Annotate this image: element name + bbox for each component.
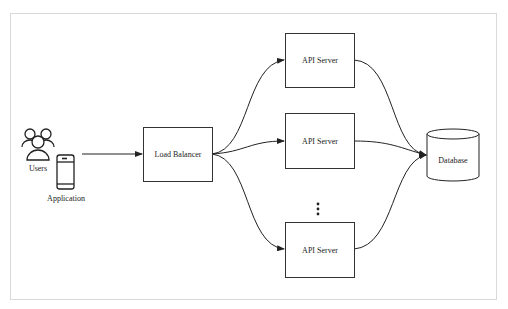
lb-to-api2-arrow bbox=[212, 141, 284, 154]
lb-to-api1-arrow bbox=[212, 60, 284, 154]
api-server-label: API Server bbox=[302, 56, 338, 65]
api-server-label: API Server bbox=[302, 137, 338, 146]
connections-layer bbox=[0, 0, 508, 309]
users-label: Users bbox=[20, 164, 56, 173]
phone-icon bbox=[57, 155, 74, 189]
application-label: Application bbox=[40, 194, 92, 203]
database-icon bbox=[427, 129, 479, 181]
database-label: Database bbox=[427, 156, 479, 165]
users-icon bbox=[22, 129, 54, 160]
api-server-node-3[interactable]: API Server bbox=[285, 222, 355, 278]
load-balancer-label: Load Balancer bbox=[155, 150, 202, 159]
api-server-node-2[interactable]: API Server bbox=[285, 113, 355, 169]
api3-to-db-arrow bbox=[354, 155, 426, 249]
ellipsis-dots bbox=[317, 203, 320, 216]
lb-to-api3-arrow bbox=[212, 154, 284, 249]
api-server-label: API Server bbox=[302, 246, 338, 255]
load-balancer-node[interactable]: Load Balancer bbox=[143, 127, 213, 182]
api2-to-db-arrow bbox=[354, 141, 426, 155]
api-server-node-1[interactable]: API Server bbox=[285, 33, 355, 88]
